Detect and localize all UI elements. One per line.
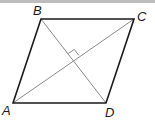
- rhombus-diagram: B C A D: [0, 0, 155, 122]
- vertex-label-b: B: [33, 3, 42, 18]
- diagonal-bd: [41, 19, 106, 103]
- vertex-label-c: C: [137, 9, 147, 24]
- right-angle-marker: [68, 49, 79, 55]
- vertex-label-a: A: [1, 103, 11, 118]
- vertex-label-d: D: [105, 105, 114, 120]
